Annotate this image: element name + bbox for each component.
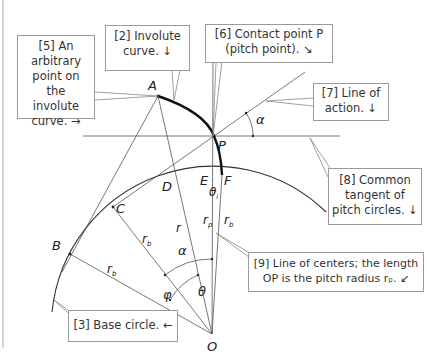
label-theta-i: θi [209, 185, 218, 201]
label-O: O [207, 339, 217, 354]
callout-c6-line2: (pitch point). ↘ [208, 42, 330, 57]
label-rp: rp [203, 213, 213, 229]
label-phi: φ [163, 287, 172, 302]
label-r: r [176, 221, 182, 235]
callout-c2-line1: [2] Involute [110, 29, 185, 44]
callout-arbitrary-point: [5] An arbitrary point on the involute c… [17, 35, 95, 119]
callout-line-of-centers: [9] Line of centers; the length OP is th… [248, 252, 424, 292]
label-rb-C: rb [142, 232, 152, 248]
callout-c7-line2: action. ↓ [316, 101, 386, 116]
callout-c7-line1: [7] Line of [316, 86, 386, 101]
callout-c9-line2: OP is the pitch radius rₚ. ↙ [251, 271, 421, 286]
alpha-arc-top [246, 113, 253, 136]
callout-line-of-action: [7] Line of action. ↓ [313, 83, 389, 121]
leader-c8 [310, 138, 330, 177]
label-E: E [200, 173, 209, 188]
label-alpha-top: α [256, 112, 265, 127]
label-B: B [52, 238, 61, 253]
label-C: C [116, 201, 126, 216]
callout-c5-line3: point on the [22, 69, 90, 99]
point-B-dot [69, 253, 72, 256]
callout-base-circle: [3] Base circle. ← [68, 310, 178, 342]
callout-contact-point: [6] Contact point P (pitch point). ↘ [205, 24, 333, 63]
arc-dot-2 [211, 258, 213, 260]
label-D: D [162, 179, 172, 194]
leader-c7 [266, 98, 313, 106]
label-alpha-mid: α [178, 243, 187, 258]
leader-c5 [95, 92, 158, 100]
alpha-arc-bottom [165, 259, 212, 275]
callout-c5-line1: [5] An [22, 39, 90, 54]
label-F: F [224, 173, 232, 188]
callout-c2-line2: curve. ↓ [110, 44, 185, 59]
label-A: A [147, 78, 157, 93]
callout-c5-line2: arbitrary [22, 54, 90, 69]
callout-involute-curve: [2] Involute curve. ↓ [105, 25, 190, 71]
leader-c2 [172, 70, 180, 100]
label-rb-F: rb [224, 213, 234, 229]
leader-c6 [213, 62, 222, 136]
callout-c9-line1: [9] Line of centers; the length [251, 256, 421, 271]
callout-c5-line4: involute [22, 99, 90, 114]
label-rb-B: rb [107, 262, 117, 278]
callout-common-tangent: [8] Common tangent of pitch circles. ↓ [328, 168, 422, 225]
alpha-dot-2 [252, 135, 254, 137]
point-C-dot [112, 206, 115, 209]
callout-c8-line1: [8] Common [331, 173, 419, 188]
arc-dot-4 [197, 274, 199, 276]
callout-c8-line2: tangent of [331, 188, 419, 203]
callout-c8-line3: pitch circles. ↓ [331, 203, 419, 218]
label-P: P [218, 138, 226, 153]
arc-dot-1 [164, 274, 166, 276]
callout-c3-line1: [3] Base circle. ← [71, 318, 175, 333]
phi-arc [170, 275, 198, 300]
callout-c5-line5: curve. → [22, 114, 90, 129]
callout-c6-line1: [6] Contact point P [208, 27, 330, 42]
label-theta: θ [198, 284, 206, 299]
alpha-dot-1 [245, 112, 247, 114]
